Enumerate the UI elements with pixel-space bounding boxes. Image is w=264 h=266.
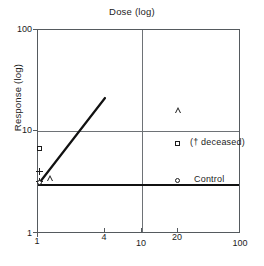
y-tick-label-10: 10	[2, 125, 32, 135]
y-axis-label: Response (log)	[12, 43, 23, 153]
legend-marker-circle	[175, 178, 180, 183]
x-tick-label-100: 100	[225, 238, 255, 248]
legend-label-control: Control	[194, 174, 224, 184]
legend-label-deceased: († deceased)	[190, 137, 245, 147]
data-point-triangle-left	[47, 175, 53, 181]
plot-area: († deceased) Control	[37, 29, 240, 233]
x-tick-label-10: 10	[126, 238, 156, 248]
chart-title: Dose (log)	[0, 6, 264, 17]
legend-marker-triangle	[175, 107, 181, 113]
triangle-inner	[176, 109, 180, 113]
chart-figure: Dose (log) Response (log) 100 10 1 1 4 1…	[0, 0, 264, 266]
legend-marker-square	[175, 141, 180, 146]
triangle-inner	[48, 177, 52, 181]
data-point-cross-lower	[36, 168, 43, 175]
dose-response-trend-line	[38, 30, 241, 234]
y-tick-label-100: 100	[2, 24, 32, 34]
x-tick-label-1: 1	[22, 236, 52, 246]
data-point-circle-left	[37, 180, 42, 185]
data-point-square-left	[37, 146, 42, 151]
